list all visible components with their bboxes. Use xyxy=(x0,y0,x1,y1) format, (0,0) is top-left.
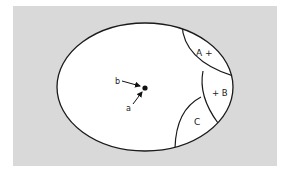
diagram-canvas: A + + B C b a xyxy=(0,0,286,171)
arrow-a-label: a xyxy=(126,104,131,113)
center-point xyxy=(142,85,147,90)
arrow-b-label: b xyxy=(115,77,120,86)
region-b-label: + B xyxy=(212,88,228,98)
region-c-label: C xyxy=(194,117,200,127)
region-a-label: A + xyxy=(196,48,213,58)
